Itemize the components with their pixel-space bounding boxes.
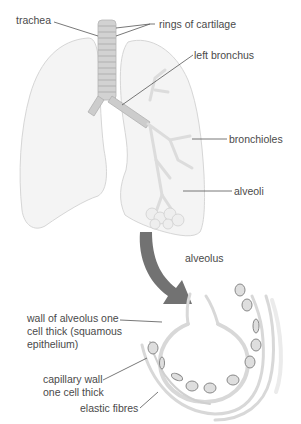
- right-lung: [20, 38, 106, 228]
- label-trachea: trachea: [16, 14, 51, 27]
- label-rings-of-cartilage: rings of cartilage: [159, 18, 236, 31]
- label-alveolus: alveolus: [185, 252, 224, 265]
- label-wall-of-alveolus: wall of alveolus one cell thick (squamou…: [27, 312, 122, 351]
- label-elastic-fibres: elastic fibres: [80, 402, 138, 415]
- label-bronchioles: bronchioles: [229, 133, 283, 146]
- lungs-diagram: [0, 0, 301, 424]
- label-capillary-wall: capillary wall one cell thick: [43, 373, 104, 399]
- label-left-bronchus: left bronchus: [194, 49, 254, 62]
- wall-line-3: epithelium): [27, 338, 122, 351]
- zoom-arrow: [140, 232, 192, 304]
- wall-line-1: wall of alveolus one: [27, 312, 122, 325]
- wall-line-2: cell thick (squamous: [27, 325, 122, 338]
- label-alveoli: alveoli: [234, 185, 264, 198]
- capillary-line-1: capillary wall: [43, 373, 104, 386]
- capillary-line-2: one cell thick: [43, 386, 104, 399]
- left-lung: [120, 40, 204, 235]
